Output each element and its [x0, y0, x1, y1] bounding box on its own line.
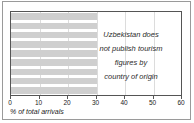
x-axis: 0102030405060 [10, 96, 183, 108]
axis-tick-label: 0 [8, 99, 12, 106]
axis-tick-label: 10 [35, 99, 42, 106]
axis-tick-label: 30 [92, 99, 99, 106]
bar [11, 87, 97, 94]
annotation-line: Uzbekistan does [85, 28, 177, 42]
bar [11, 41, 97, 48]
axis-tick-label: 60 [177, 99, 184, 106]
bar [11, 78, 97, 85]
axis-tick-label: 50 [149, 99, 156, 106]
bar [11, 69, 97, 76]
plot-area: Uzbekistan does not publish tourism figu… [10, 11, 182, 96]
annotation-line: not publish tourism [85, 42, 177, 56]
bar [11, 32, 97, 39]
annotation-line: country of origin [85, 70, 177, 84]
no-data-annotation: Uzbekistan does not publish tourism figu… [85, 28, 177, 84]
axis-tick-label: 20 [63, 99, 70, 106]
chart-figure: Uzbekistan does not publish tourism figu… [2, 1, 191, 120]
bar [11, 23, 97, 30]
bar [11, 59, 97, 66]
x-axis-title: % of total arrivals [10, 108, 64, 115]
annotation-line: figures by [85, 56, 177, 70]
bar [11, 13, 97, 20]
bar [11, 50, 97, 57]
axis-tick-label: 40 [120, 99, 127, 106]
